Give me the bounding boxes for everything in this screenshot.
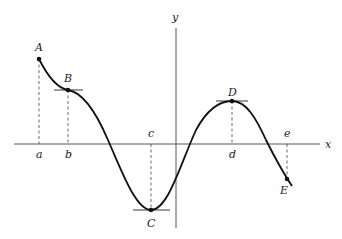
point-c-label: C xyxy=(147,217,156,230)
point-b-dot xyxy=(66,88,71,93)
point-d-dot xyxy=(230,99,235,104)
tick-label-b: b xyxy=(65,148,72,161)
tick-label-a: a xyxy=(36,148,43,161)
point-a-dot xyxy=(37,57,42,62)
point-a-label: A xyxy=(34,41,43,54)
function-graph: x y A B C D E a b c d e xyxy=(0,0,342,239)
point-e-dot xyxy=(285,177,290,182)
x-axis-label: x xyxy=(325,138,332,151)
tick-label-d: d xyxy=(229,148,236,161)
point-c-dot xyxy=(149,208,154,213)
y-axis-label: y xyxy=(171,11,179,24)
function-curve xyxy=(39,59,292,210)
point-b-label: B xyxy=(63,72,72,85)
point-e-label: E xyxy=(279,184,288,197)
tick-label-c: c xyxy=(148,127,154,140)
tick-label-e: e xyxy=(284,127,291,140)
point-d-label: D xyxy=(227,86,237,99)
